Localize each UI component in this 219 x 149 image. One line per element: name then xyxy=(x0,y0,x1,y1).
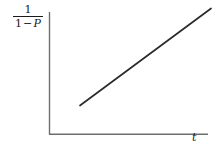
data-line-series-1 xyxy=(80,9,211,106)
y-axis-label: 1 1−P xyxy=(8,4,48,30)
x-axis-label: t xyxy=(192,132,196,143)
fraction-numerator: 1 xyxy=(13,4,43,16)
y-axis-label-fraction: 1 1−P xyxy=(13,4,43,29)
fraction-denominator: 1−P xyxy=(13,17,43,29)
denominator-variable: P xyxy=(34,17,42,30)
minus-sign: − xyxy=(22,17,33,30)
denominator-one: 1 xyxy=(15,17,22,30)
line-chart-figure: 1 1−P t xyxy=(0,0,219,149)
